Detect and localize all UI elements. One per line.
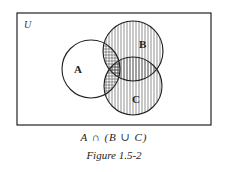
set-c-label: C [132, 93, 140, 105]
set-expression: A ∩ (B ∪ C) [0, 131, 228, 144]
set-b-label: B [139, 38, 147, 50]
venn-diagram: U A B C [0, 0, 228, 172]
set-a-label: A [74, 63, 82, 75]
venn-diagram-figure: U A B C [0, 0, 228, 172]
figure-label: Figure 1.5-2 [0, 149, 228, 161]
universe-label: U [24, 19, 32, 30]
